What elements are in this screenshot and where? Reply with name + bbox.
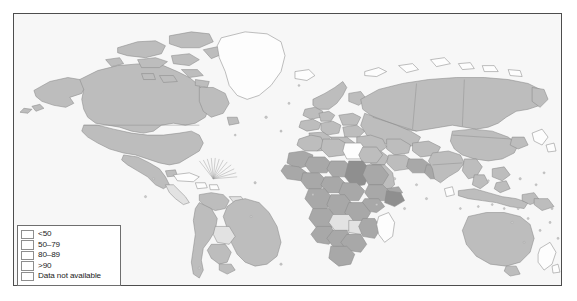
legend-item-50-79: 50–79 bbox=[21, 240, 116, 251]
legend-label-80-89: 80–89 bbox=[38, 250, 60, 261]
legend-label-lt50: <50 bbox=[38, 229, 51, 240]
legend-item-80-89: 80–89 bbox=[21, 250, 116, 261]
legend-swatch-no-data bbox=[21, 272, 34, 282]
legend-swatch-80-89 bbox=[21, 251, 34, 261]
legend-label-no-data: Data not available bbox=[38, 271, 101, 282]
legend-swatch-50-79 bbox=[21, 240, 34, 250]
map-legend: <50 50–79 80–89 >90 Data not available bbox=[17, 225, 121, 286]
figure-root: .ld{stroke:#8a8a8a;stroke-width:0.55;str… bbox=[0, 0, 577, 301]
legend-item-gt90: >90 bbox=[21, 261, 116, 272]
legend-label-50-79: 50–79 bbox=[38, 240, 60, 251]
legend-swatch-gt90 bbox=[21, 261, 34, 271]
legend-label-gt90: >90 bbox=[38, 261, 51, 272]
legend-item-lt50: <50 bbox=[21, 229, 116, 240]
legend-item-no-data: Data not available bbox=[21, 271, 116, 282]
legend-swatch-lt50 bbox=[21, 230, 34, 240]
